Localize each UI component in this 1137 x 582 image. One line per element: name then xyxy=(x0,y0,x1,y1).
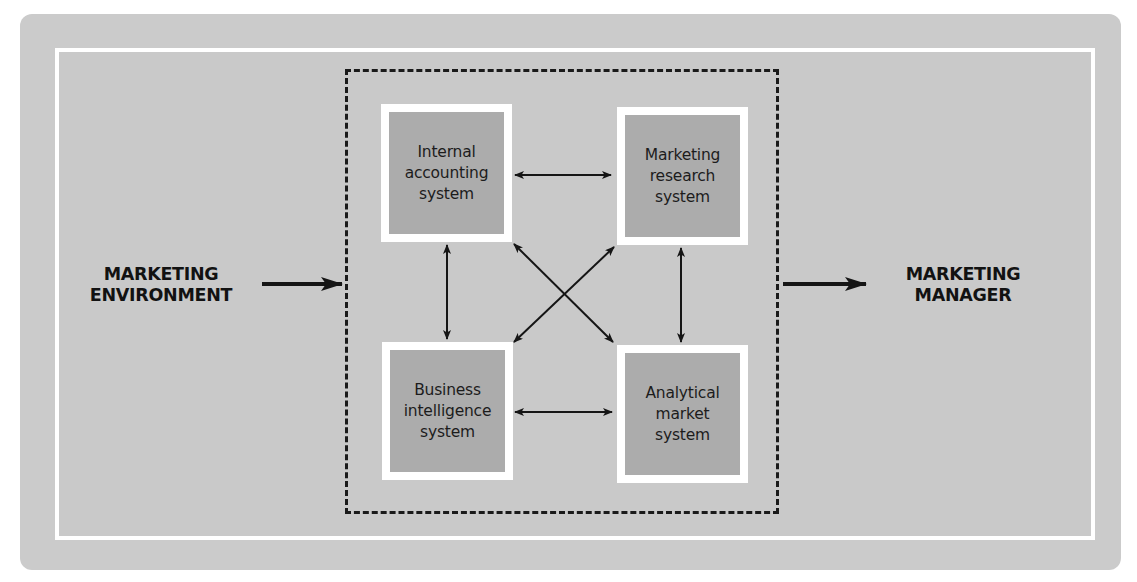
business-intelligence-system-fill: Business intelligence system xyxy=(390,350,505,472)
marketing-research-system-label: Marketing research system xyxy=(645,145,720,208)
internal-accounting-system-fill: Internal accounting system xyxy=(389,112,504,234)
analytical-market-system-fill: Analytical market system xyxy=(625,353,740,475)
marketing-manager-label: MARKETING MANAGER xyxy=(888,264,1038,306)
analytical-market-system-label: Analytical market system xyxy=(645,383,719,446)
marketing-research-system-box: Marketing research system xyxy=(617,107,748,245)
business-intelligence-system-box: Business intelligence system xyxy=(382,342,513,480)
internal-accounting-system-label: Internal accounting system xyxy=(405,142,489,205)
business-intelligence-system-label: Business intelligence system xyxy=(404,380,492,443)
analytical-market-system-box: Analytical market system xyxy=(617,345,748,483)
internal-accounting-system-box: Internal accounting system xyxy=(381,104,512,242)
marketing-environment-label: MARKETING ENVIRONMENT xyxy=(70,264,252,306)
marketing-research-system-fill: Marketing research system xyxy=(625,115,740,237)
